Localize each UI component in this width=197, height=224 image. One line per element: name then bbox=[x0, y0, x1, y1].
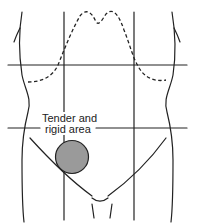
right-thigh-line bbox=[110, 204, 112, 218]
right-inguinal-line bbox=[108, 138, 166, 196]
left-flank-outline bbox=[20, 12, 29, 222]
right-flank-outline bbox=[166, 12, 175, 222]
ribcage-margin-dashed bbox=[28, 11, 166, 82]
tender-rigid-area bbox=[56, 141, 89, 174]
abdomen-drawing bbox=[0, 0, 197, 224]
pubic-curve bbox=[92, 198, 108, 201]
tender-label-line2: rigid area bbox=[44, 123, 92, 135]
abdomen-diagram: Tender and rigid area bbox=[0, 0, 197, 224]
left-thigh-line bbox=[92, 204, 94, 218]
